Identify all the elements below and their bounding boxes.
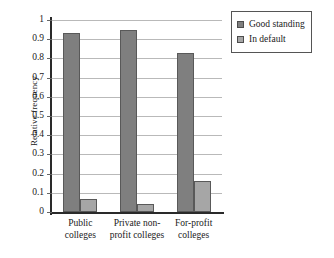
y-axis-tick-label: 1 [39,15,44,25]
plot-area: 10.90.80.70.60.50.40.30.20.10 Public col… [52,20,222,212]
y-axis-tick [47,116,52,117]
legend-item: Good standing [237,17,305,32]
x-axis-label: Private non-profit colleges [109,218,166,241]
legend-swatch-icon [237,36,244,43]
y-axis-tick-label: 0.8 [32,54,44,64]
y-axis-tick [47,97,52,98]
legend-swatch-icon [237,21,244,28]
x-axis-label: For-profit colleges [165,218,222,241]
y-axis-tick-label: 0.9 [32,34,44,44]
bar [137,204,154,212]
y-axis-tick [47,212,52,213]
y-axis-tick [47,39,52,40]
y-axis-tick [47,135,52,136]
bar-chart-figure: Relative frequency 10.90.80.70.60.50.40.… [0,0,334,258]
y-axis-tick-label: 0.5 [32,111,44,121]
y-axis-tick [47,174,52,175]
x-axis-label: Public colleges [52,218,109,241]
legend-label: Good standing [249,20,305,30]
y-axis-tick-label: 0.4 [32,130,44,140]
bar [194,181,211,212]
gridline [52,20,222,21]
y-axis-tick-label: 0 [39,207,44,217]
y-axis-tick-label: 0.2 [32,169,44,179]
y-axis-tick-label: 0.6 [32,92,44,102]
chart-legend: Good standingIn default [231,11,312,53]
y-axis-tick-label: 0.3 [32,150,44,160]
legend-item: In default [237,32,305,47]
bar [80,199,97,212]
y-axis-tick [47,58,52,59]
bar [63,33,80,212]
y-axis-tick [47,154,52,155]
y-axis-tick-label: 0.1 [32,188,44,198]
y-axis-tick [47,78,52,79]
x-axis-line [50,212,224,214]
y-axis-tick [47,20,52,21]
bar [120,30,137,212]
legend-label: In default [249,35,286,45]
bar [177,53,194,212]
y-axis-tick [47,193,52,194]
y-axis-tick-label: 0.7 [32,73,44,83]
